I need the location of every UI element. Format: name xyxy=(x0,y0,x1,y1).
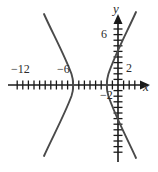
x-tick-label-neg6: −6 xyxy=(57,63,70,75)
x-tick-label-2: 2 xyxy=(126,62,132,74)
graph-figure: x y −12 −6 2 6 −2 xyxy=(0,0,158,172)
coordinate-plot xyxy=(0,0,158,172)
y-axis xyxy=(114,14,123,162)
y-tick-label-6: 6 xyxy=(101,28,107,40)
x-axis-label: x xyxy=(143,80,149,93)
y-axis-label: y xyxy=(113,2,119,15)
y-tick-label-neg2: −2 xyxy=(100,89,113,101)
x-tick-label-neg12: −12 xyxy=(11,63,30,75)
